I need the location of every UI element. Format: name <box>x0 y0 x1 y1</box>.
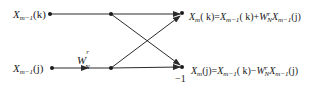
cross-branch-down <box>111 14 180 65</box>
output-formula-bottom: Xm(j)=Xm−1( k)−WrNXm−1(j) <box>191 62 298 80</box>
cross-branch-up <box>111 16 180 68</box>
mid-node-bottom <box>109 66 113 70</box>
minus-one-label: −1 <box>175 73 186 84</box>
output-node-bottom <box>180 65 184 69</box>
output-formula-top: Xm( k)=Xm−1( k)+WrNXm−1(j) <box>189 8 301 26</box>
input-label-top: Xm−1(k) <box>13 8 46 24</box>
input-node-bottom <box>50 66 54 70</box>
bottom-straight-branch <box>111 67 180 68</box>
twiddle-factor-label: WrN <box>77 51 94 71</box>
mid-node-top <box>109 12 113 16</box>
output-node-top <box>180 11 184 15</box>
input-label-bottom: Xm−1(j) <box>13 62 43 78</box>
input-node-top <box>48 12 52 16</box>
